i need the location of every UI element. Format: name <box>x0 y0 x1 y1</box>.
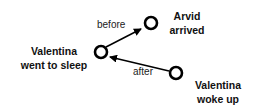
node-label-valentina-sleep: Valentina went to sleep <box>14 44 94 72</box>
node-label-arvid-arrived: Arvid arrived <box>166 9 208 37</box>
node-label-line1: Valentina <box>14 44 94 58</box>
edge-before-arrow <box>106 29 141 47</box>
node-label-line1: Valentina <box>188 78 248 92</box>
node-label-line2: went to sleep <box>14 58 94 72</box>
node-valentina-woke-circle <box>170 67 182 79</box>
node-label-line2: arrived <box>166 23 208 37</box>
node-label-line1: Arvid <box>166 9 208 23</box>
node-arvid-arrived-circle <box>145 17 157 29</box>
edge-label-before: before <box>97 19 125 30</box>
node-label-line2: woke up <box>188 92 248 106</box>
edge-label-after: after <box>133 66 153 77</box>
node-label-valentina-woke: Valentina woke up <box>188 78 248 106</box>
node-valentina-sleep-circle <box>95 46 107 58</box>
